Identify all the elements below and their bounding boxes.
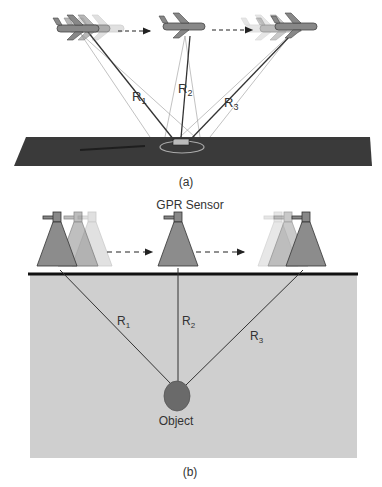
object-label: Object bbox=[159, 414, 194, 428]
aircraft-position-3 bbox=[241, 13, 317, 40]
gpr-position-2 bbox=[158, 212, 198, 266]
range-label-r1-a: R1 bbox=[132, 89, 146, 106]
panel-a: R1 R2 R3 (a) bbox=[14, 13, 372, 189]
caption-a: (a) bbox=[179, 175, 194, 189]
panel-b: GPR Sensor R1 R2 R3 Object (b) bbox=[28, 198, 358, 479]
aircraft-position-2 bbox=[159, 13, 205, 38]
gpr-position-3 bbox=[258, 212, 326, 266]
object-target bbox=[164, 381, 190, 411]
gpr-sensor-label: GPR Sensor bbox=[156, 198, 223, 212]
gpr-position-1 bbox=[37, 212, 112, 266]
range-lines-a bbox=[88, 32, 290, 140]
caption-b: (b) bbox=[183, 465, 198, 479]
range-label-r3-a: R3 bbox=[224, 95, 238, 112]
range-label-r2-a: R2 bbox=[178, 81, 192, 98]
soil-region bbox=[30, 275, 357, 458]
ground-target-icon bbox=[173, 139, 189, 145]
aircraft-position-1 bbox=[53, 15, 124, 40]
